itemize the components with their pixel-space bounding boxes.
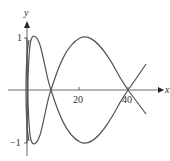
y-tick-label-neg1: −1	[10, 137, 21, 148]
x-axis-arrow-icon	[158, 87, 164, 93]
x-tick-label-40: 40	[122, 94, 132, 105]
y-tick-label-1: 1	[17, 32, 22, 43]
y-axis-arrow-icon	[24, 21, 30, 28]
y-axis-label: y	[23, 7, 29, 18]
parametric-curve-chart: y x 20 40 1 −1	[0, 0, 170, 161]
x-axis-label: x	[164, 84, 170, 95]
x-tick-label-20: 20	[73, 94, 83, 105]
